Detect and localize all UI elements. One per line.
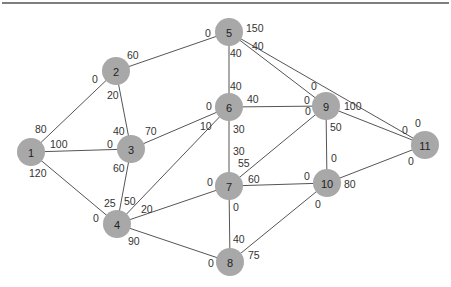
edge-weight-label: 40 <box>230 47 242 59</box>
edge-weight-label: 100 <box>50 138 68 150</box>
node-3: 3 <box>117 135 145 163</box>
edge-8-10 <box>230 183 327 262</box>
node-1: 1 <box>17 138 45 166</box>
edge-weight-label: 100 <box>344 100 362 112</box>
edge-weight-label: 0 <box>402 124 408 136</box>
edge-weight-label: 0 <box>331 152 337 164</box>
edge-weight-label: 0 <box>233 201 239 213</box>
edge-6-9 <box>229 106 326 107</box>
node-9: 9 <box>312 92 340 120</box>
edge-weight-label: 40 <box>247 93 259 105</box>
edge-weight-label: 50 <box>330 121 342 133</box>
edge-weight-label: 60 <box>113 162 125 174</box>
edge-weight-label: 0 <box>93 212 99 224</box>
node-label: 10 <box>321 178 333 190</box>
edge-weight-label: 55 <box>238 157 250 169</box>
node-label: 2 <box>113 66 119 78</box>
edge-weight-label: 0 <box>206 100 212 112</box>
edge-weight-label: 50 <box>124 195 136 207</box>
edge-1-2 <box>31 71 116 152</box>
node-label: 11 <box>419 140 430 152</box>
edge-weight-label: 0 <box>315 198 321 210</box>
edge-weight-label: 40 <box>233 233 245 245</box>
edge-weight-label: 30 <box>233 145 245 157</box>
node-5: 5 <box>215 18 243 46</box>
edge-weight-label: 0 <box>304 170 310 182</box>
edge-weight-label: 0 <box>305 105 311 117</box>
node-label: 6 <box>226 102 232 114</box>
node-label: 5 <box>226 27 232 39</box>
edge-weight-label: 75 <box>248 249 260 261</box>
node-label: 8 <box>227 257 233 269</box>
edge-weight-label: 40 <box>230 80 242 92</box>
edge-weight-label: 80 <box>35 123 47 135</box>
edge-labels-layer: 8001000120060020407006025501020090015040… <box>29 22 421 269</box>
edge-weight-label: 0 <box>408 155 414 167</box>
edges-layer <box>31 32 425 262</box>
node-label: 7 <box>226 181 232 193</box>
edge-1-4 <box>31 152 117 224</box>
edge-weight-label: 0 <box>208 257 214 269</box>
node-2: 2 <box>102 57 130 85</box>
edge-weight-label: 40 <box>252 40 264 52</box>
node-11: 11 <box>411 131 439 159</box>
edge-weight-label: 20 <box>141 203 153 215</box>
edge-weight-label: 0 <box>205 27 211 39</box>
node-label: 3 <box>128 144 134 156</box>
edge-weight-label: 120 <box>29 167 47 179</box>
node-7: 7 <box>215 172 243 200</box>
edge-weight-label: 150 <box>246 22 264 34</box>
node-8: 8 <box>216 248 244 276</box>
edge-weight-label: 25 <box>104 197 116 209</box>
edge-weight-label: 60 <box>248 173 260 185</box>
edge-weight-label: 80 <box>344 178 356 190</box>
edge-5-9 <box>229 32 326 106</box>
edge-weight-label: 90 <box>128 235 140 247</box>
node-label: 9 <box>323 101 329 113</box>
edge-weight-label: 20 <box>107 89 119 101</box>
edge-weight-label: 0 <box>207 176 213 188</box>
node-4: 4 <box>103 210 131 238</box>
node-10: 10 <box>313 169 341 197</box>
network-graph: 1234567891011 80010001200600204070060255… <box>0 0 451 287</box>
edge-weight-label: 60 <box>127 49 139 61</box>
edge-weight-label: 30 <box>233 123 245 135</box>
edge-1-3 <box>31 149 131 152</box>
edge-weight-label: 70 <box>145 125 157 137</box>
edge-7-10 <box>229 183 327 186</box>
edge-weight-label: 0 <box>92 73 98 85</box>
edge-weight-label: 0 <box>107 138 113 150</box>
edge-weight-label: 10 <box>200 120 212 132</box>
node-label: 4 <box>114 219 120 231</box>
nodes-layer: 1234567891011 <box>17 18 439 276</box>
edge-weight-label: 0 <box>415 117 421 129</box>
node-6: 6 <box>215 93 243 121</box>
node-label: 1 <box>28 147 34 159</box>
edge-weight-label: 0 <box>311 80 317 92</box>
edge-weight-label: 40 <box>113 125 125 137</box>
